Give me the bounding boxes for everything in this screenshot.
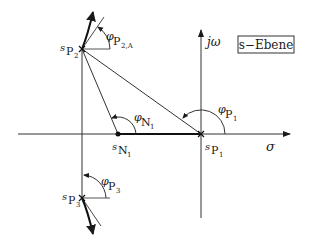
svg-text:3: 3: [76, 201, 80, 209]
svg-text:P: P: [68, 194, 76, 207]
svg-text:2,A: 2,A: [121, 42, 134, 50]
svg-text:s: s: [62, 191, 67, 202]
imag-axis-label: jω: [204, 35, 221, 49]
svg-text:s: s: [205, 141, 210, 152]
svg-text:1: 1: [233, 115, 237, 123]
real-axis-label: σ: [266, 139, 276, 154]
p2-tangent-line: [82, 17, 104, 49]
label-s-p1: s P 1: [205, 141, 223, 159]
svg-text:1: 1: [219, 151, 223, 159]
label-phi-n1: φ N 1: [134, 111, 154, 131]
svg-text:3: 3: [116, 187, 120, 195]
svg-text:P: P: [66, 45, 74, 58]
title-box-label: s−Ebene: [239, 38, 294, 52]
svg-text:P: P: [113, 35, 121, 48]
phi-n1-arc: [112, 117, 136, 134]
svg-text:s: s: [60, 42, 65, 53]
p3-tangent-line: [82, 198, 101, 226]
svg-text:P: P: [225, 108, 233, 121]
p2-locus-branch: [82, 12, 93, 49]
label-s-p2: s P 2: [60, 42, 78, 60]
svg-text:P: P: [211, 144, 219, 157]
label-phi-p3: φ P 3: [101, 175, 120, 195]
svg-text:2: 2: [74, 52, 78, 60]
label-s-p3: s P 3: [62, 191, 80, 209]
p3-locus-branch: [82, 198, 93, 234]
svg-text:1: 1: [150, 123, 154, 131]
svg-text:P: P: [108, 180, 116, 193]
root-locus-diagram: s−Ebene jω σ s P 1 s P 2 s P 3 s N 1 φ P…: [0, 0, 310, 247]
svg-text:s: s: [112, 141, 117, 152]
svg-text:1: 1: [127, 151, 131, 159]
label-s-n1: s N 1: [112, 141, 131, 159]
zero-marker-n1: [116, 132, 121, 137]
